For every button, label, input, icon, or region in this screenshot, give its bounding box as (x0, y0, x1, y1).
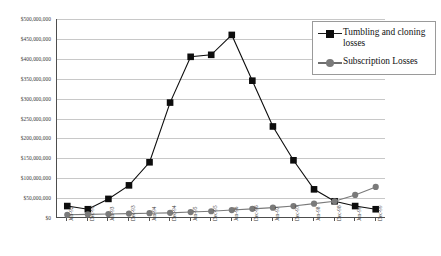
legend-item-label: Tumbling and cloning losses (343, 27, 431, 49)
x-axis-tick-label: Jun-98 (315, 207, 321, 221)
y-axis-tick-label: $300,000,000 (21, 96, 51, 102)
data-point-square-marker (126, 182, 133, 189)
legend-marker-circle-icon (317, 57, 343, 68)
x-axis-tick-label: Jun-93 (109, 207, 115, 221)
y-axis-tick-label: $200,000,000 (21, 135, 51, 141)
y-axis-tick-label: $50,000,000 (23, 195, 51, 201)
x-axis-tick-mark (231, 218, 232, 221)
x-axis-tick-mark (313, 218, 314, 221)
x-axis-tick-label: Jun-94 (151, 207, 157, 221)
x-axis-tick-label: Dec-94 (171, 205, 177, 221)
chart-container: $500,000,000$450,000,000$400,000,000$350… (0, 0, 441, 256)
x-axis-tick-mark (169, 218, 170, 221)
faint-header-text (62, 0, 242, 8)
data-point-square-marker (270, 123, 277, 130)
x-axis-tick-label: Dec-97 (294, 205, 300, 221)
y-axis-tick-label: $400,000,000 (21, 56, 51, 62)
chart-legend: Tumbling and cloning losses Subscription… (312, 21, 436, 75)
data-point-circle-marker (331, 198, 337, 204)
data-point-square-marker (290, 157, 297, 164)
y-axis-tick-label: $350,000,000 (21, 76, 51, 82)
x-axis-tick-label: Jun-95 (192, 207, 198, 221)
x-axis-tick-label: Dec-99 (377, 205, 383, 221)
x-axis-tick-label: Dec-96 (253, 205, 259, 221)
x-axis-tick-mark (128, 218, 129, 221)
x-axis-tick-label: Jun-92 (68, 207, 74, 221)
y-axis-tick-label: $450,000,000 (21, 36, 51, 42)
data-point-square-marker (249, 77, 256, 84)
y-axis-labels: $500,000,000$450,000,000$400,000,000$350… (0, 19, 54, 218)
legend-item-label: Subscription Losses (343, 56, 431, 67)
x-axis-tick-label: Dec-93 (130, 205, 136, 221)
x-axis-tick-label: Jun-99 (356, 207, 362, 221)
data-point-square-marker (311, 186, 318, 193)
x-axis-tick-mark (190, 218, 191, 221)
y-axis-tick-label: $150,000,000 (21, 155, 51, 161)
x-axis-tick-label: Dec-98 (336, 205, 342, 221)
x-axis-tick-mark (272, 218, 273, 221)
x-axis-tick-mark (149, 218, 150, 221)
x-axis-labels: Jun-92Dec-92Jun-93Dec-93Jun-94Dec-94Jun-… (56, 218, 385, 256)
y-axis-tick-label: $250,000,000 (21, 116, 51, 122)
data-point-square-marker (105, 196, 112, 203)
x-axis-tick-mark (375, 218, 376, 221)
data-point-circle-marker (352, 192, 358, 198)
legend-marker-square-icon (317, 28, 343, 39)
data-point-square-marker (208, 52, 215, 59)
legend-item: Subscription Losses (317, 56, 431, 68)
x-axis-tick-mark (334, 218, 335, 221)
legend-item: Tumbling and cloning losses (317, 27, 431, 49)
x-axis-tick-mark (87, 218, 88, 221)
x-axis-tick-label: Jun-96 (233, 207, 239, 221)
y-axis-tick-label: $0 (46, 215, 52, 221)
x-axis-tick-label: Dec-92 (89, 205, 95, 221)
data-point-circle-marker (373, 184, 379, 190)
data-point-square-marker (187, 54, 194, 61)
y-axis-tick-label: $100,000,000 (21, 175, 51, 181)
data-point-square-marker (228, 32, 235, 39)
x-axis-tick-mark (354, 218, 355, 221)
data-point-square-marker (167, 99, 174, 106)
x-axis-tick-label: Jun-97 (274, 207, 280, 221)
y-axis-tick-label: $500,000,000 (21, 16, 51, 22)
x-axis-tick-label: Dec-95 (212, 205, 218, 221)
data-point-square-marker (146, 159, 153, 166)
